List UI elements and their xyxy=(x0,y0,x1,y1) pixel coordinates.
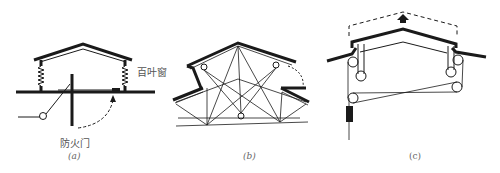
pulley-icon xyxy=(356,71,366,81)
label-fire-door: 防火门 xyxy=(60,135,90,150)
door-swing-arrow xyxy=(78,100,113,128)
pulley-icon xyxy=(348,57,358,67)
left-flap xyxy=(187,66,201,88)
pulley-icon xyxy=(452,82,462,92)
caption-b: (b) xyxy=(243,151,256,161)
pulley-icon xyxy=(446,67,456,77)
spring-right-icon xyxy=(122,66,128,92)
rod-left xyxy=(358,44,364,74)
figure-b xyxy=(173,43,309,126)
roof-a xyxy=(34,44,132,66)
pulley-icon xyxy=(348,93,358,103)
ridge-cap-c xyxy=(352,29,456,48)
pivot-right-icon xyxy=(273,62,279,68)
caption-c: (c) xyxy=(409,151,421,161)
counterweight xyxy=(346,106,353,122)
flap-opening-arc xyxy=(288,66,303,88)
label-louver: 百叶窗 xyxy=(137,64,167,79)
spring-left-icon xyxy=(38,66,44,92)
caption-a: (a) xyxy=(68,151,80,161)
figure-a xyxy=(16,44,155,128)
figure-c xyxy=(327,12,486,140)
pivot-left-icon xyxy=(201,64,207,70)
pulley-icon xyxy=(40,113,47,120)
